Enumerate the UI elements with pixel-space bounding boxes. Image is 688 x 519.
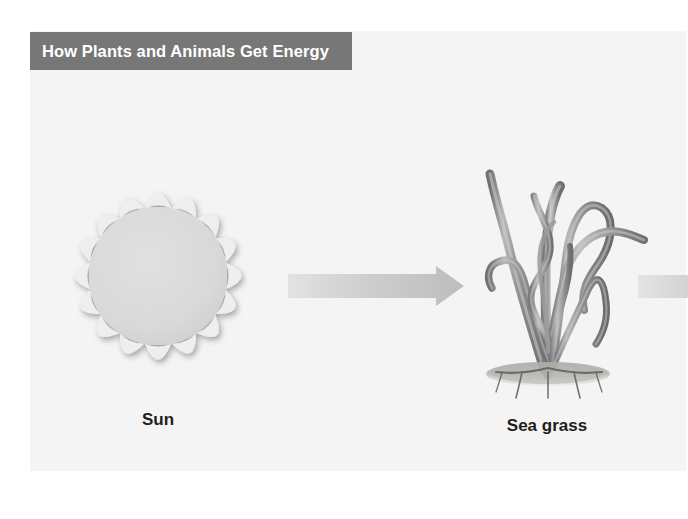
diagram-node-sea-grass xyxy=(462,152,632,400)
right-arrow-icon xyxy=(286,266,466,316)
caption-sun: Sun xyxy=(58,410,258,430)
connector-arrow-sun-to-seagrass xyxy=(286,266,466,316)
caption-sea-grass: Sea grass xyxy=(462,416,632,436)
page-title: How Plants and Animals Get Energy xyxy=(42,42,329,61)
diagram-node-sun xyxy=(58,176,258,376)
title-banner: How Plants and Animals Get Energy xyxy=(30,32,352,70)
right-arrow-icon xyxy=(636,266,688,316)
sea-grass-icon xyxy=(462,152,632,400)
connector-arrow-seagrass-next xyxy=(636,266,688,316)
sun-icon xyxy=(58,176,258,376)
